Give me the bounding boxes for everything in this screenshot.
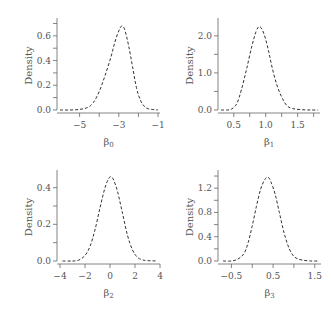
y-tick-label: 1.0	[198, 68, 213, 78]
x-tick-label: −2	[78, 271, 91, 281]
density-plot-figure: 0.00.20.40.6−5−3−1β0Density 0.01.02.00.5…	[0, 0, 331, 310]
x-tick-label: 0.5	[266, 271, 281, 281]
x-tick-label: 1.0	[259, 120, 274, 130]
x-tick-label: −5	[73, 120, 87, 130]
y-tick-label: 0.4	[37, 56, 52, 66]
x-axis-label: β3	[264, 287, 274, 300]
x-tick-label: 2	[132, 271, 138, 281]
x-tick-label: −4	[53, 271, 67, 281]
x-tick-label: −0.5	[220, 271, 242, 281]
panel-beta0: 0.00.20.40.6−5−3−1β0Density	[23, 18, 165, 149]
x-tick-label: 4	[157, 271, 163, 281]
y-tick-label: 0.0	[37, 256, 52, 266]
y-tick-label: 0.2	[37, 219, 51, 229]
y-axis-label: Density	[23, 46, 34, 85]
y-tick-label: 0.2	[37, 80, 51, 90]
panel-beta1: 0.01.02.00.51.01.5β1Density	[184, 18, 320, 149]
panel-beta2: 0.00.20.4−4−2024β2Density	[23, 170, 163, 300]
y-tick-label: 0.4	[37, 183, 52, 193]
density-curve	[63, 177, 158, 262]
y-tick-label: 0.0	[198, 256, 213, 266]
x-tick-label: 0	[107, 271, 113, 281]
y-tick-label: 0.8	[198, 207, 213, 217]
y-tick-label: 0.0	[37, 105, 52, 115]
x-axis-label: β0	[103, 136, 113, 149]
x-tick-label: −3	[112, 120, 126, 130]
y-axis-label: Density	[23, 197, 34, 236]
x-tick-label: 1.5	[308, 271, 323, 281]
y-tick-label: 2.0	[198, 31, 213, 41]
y-axis-label: Density	[184, 197, 195, 236]
x-tick-label: −1	[151, 120, 164, 130]
y-axis-label: Density	[184, 46, 195, 85]
density-curve	[60, 26, 158, 110]
density-curve	[223, 177, 319, 261]
x-tick-label: 0.5	[227, 120, 242, 130]
y-tick-label: 0.6	[37, 31, 52, 41]
x-tick-label: 1.5	[290, 120, 305, 130]
y-tick-label: 0.4	[198, 232, 213, 242]
y-tick-label: 0.0	[198, 105, 213, 115]
x-axis-label: β2	[103, 287, 113, 300]
y-tick-label: 1.2	[198, 183, 212, 193]
density-curve	[221, 27, 318, 111]
panel-beta3: 0.00.40.81.2−0.50.51.5β3Density	[184, 170, 322, 300]
x-axis-label: β1	[264, 136, 274, 149]
